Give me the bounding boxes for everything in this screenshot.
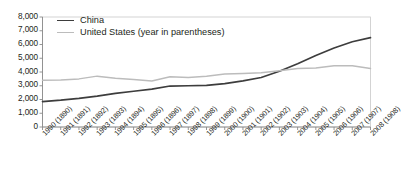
chart-legend: ChinaUnited States (year in parentheses) — [57, 14, 307, 38]
legend-item-label: China — [80, 15, 104, 25]
legend-item[interactable]: China — [57, 14, 307, 26]
legend-item-label: United States (year in parentheses) — [80, 27, 225, 37]
legend-swatch-icon — [57, 32, 74, 33]
legend-swatch-icon — [57, 20, 74, 21]
legend-item[interactable]: United States (year in parentheses) — [57, 26, 307, 38]
